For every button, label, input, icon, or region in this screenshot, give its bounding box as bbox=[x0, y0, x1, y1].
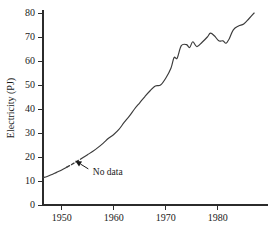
x-tick-label: 1960 bbox=[104, 212, 124, 223]
data-series-group bbox=[43, 13, 254, 178]
annotation-group: No data bbox=[75, 161, 123, 177]
data-line-observed-early bbox=[43, 167, 67, 178]
x-axis-ticks bbox=[62, 205, 218, 210]
x-tick-label: 1970 bbox=[156, 212, 176, 223]
y-tick-label: 40 bbox=[25, 103, 35, 114]
chart-canvas: 01020304050607080 1950196019701980 Elect… bbox=[0, 0, 273, 235]
no-data-arrow-shaft bbox=[81, 164, 89, 169]
y-tick-label: 10 bbox=[25, 175, 35, 186]
y-tick-label: 60 bbox=[25, 55, 35, 66]
x-tick-label: 1950 bbox=[52, 212, 72, 223]
x-axis-tick-labels: 1950196019701980 bbox=[52, 212, 228, 223]
no-data-annotation-label: No data bbox=[93, 167, 124, 177]
y-tick-label: 30 bbox=[25, 127, 35, 138]
no-data-arrow-head bbox=[75, 161, 82, 167]
y-axis-ticks bbox=[38, 13, 43, 205]
electricity-line-chart-figure: 01020304050607080 1950196019701980 Elect… bbox=[0, 0, 273, 235]
y-tick-label: 70 bbox=[25, 31, 35, 42]
y-tick-label: 0 bbox=[30, 199, 35, 210]
data-line-observed-late bbox=[84, 13, 255, 157]
y-tick-label: 50 bbox=[25, 79, 35, 90]
x-tick-label: 1980 bbox=[208, 212, 228, 223]
axes-group bbox=[43, 10, 268, 205]
y-axis-title: Electricity (PJ) bbox=[5, 78, 17, 138]
y-tick-label: 20 bbox=[25, 151, 35, 162]
y-tick-label: 80 bbox=[25, 7, 35, 18]
y-axis-tick-labels: 01020304050607080 bbox=[25, 7, 35, 210]
